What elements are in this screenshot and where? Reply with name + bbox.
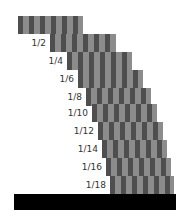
block-8	[102, 140, 167, 158]
block-7	[98, 122, 163, 140]
block-1	[18, 16, 83, 34]
block-6	[92, 104, 157, 122]
overhang-label: 1/4	[33, 56, 63, 66]
block-9	[106, 158, 171, 176]
overhang-label: 1/12	[64, 126, 94, 136]
overhang-label: 1/16	[72, 162, 102, 172]
overhang-label: 1/18	[76, 180, 106, 190]
block-stacking-diagram: 1/21/41/61/81/101/121/141/161/18	[0, 0, 194, 219]
overhang-label: 1/6	[44, 74, 74, 84]
block-4	[78, 70, 143, 88]
block-3	[67, 52, 132, 70]
block-2	[50, 34, 116, 52]
overhang-label: 1/2	[16, 38, 46, 48]
table-base	[14, 194, 176, 210]
overhang-label: 1/10	[58, 108, 88, 118]
overhang-label: 1/14	[68, 144, 98, 154]
overhang-label: 1/8	[52, 92, 82, 102]
block-10	[110, 176, 174, 194]
